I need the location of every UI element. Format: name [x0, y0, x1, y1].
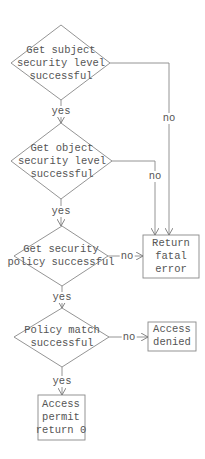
- edge-d1-fatal: [110, 63, 169, 235]
- edge-label-yes-4: yes: [52, 376, 73, 387]
- access-permit-text: Access permit return 0: [36, 398, 86, 437]
- edge-label-yes-3: yes: [52, 292, 73, 303]
- access-denied-text: Access denied: [153, 323, 191, 349]
- edge-label-yes-2: yes: [51, 206, 72, 217]
- edge-label-no-1: no: [162, 113, 177, 124]
- decision-subject-level-text: Get subject security level successful: [17, 44, 105, 83]
- edge-label-no-3: no: [120, 251, 135, 262]
- edge-label-no-2: no: [148, 171, 163, 182]
- decision-security-policy-text: Get security policy successful: [7, 243, 114, 269]
- return-fatal-error-text: Return fatal error: [152, 237, 190, 276]
- decision-policy-match-text: Policy match successful: [24, 324, 100, 350]
- edge-label-no-4: no: [122, 332, 137, 343]
- decision-object-level-text: Get object security level successful: [18, 142, 106, 181]
- edge-label-yes-1: yes: [51, 106, 72, 117]
